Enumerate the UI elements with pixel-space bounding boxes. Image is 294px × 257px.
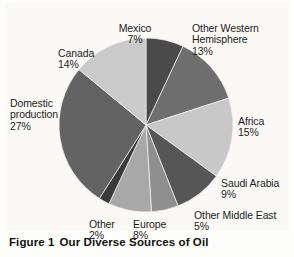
pie-label-other-western-hemisphere-pct: 13%: [192, 46, 288, 58]
pie-label-domestic-production: Domestic production 27%: [10, 86, 80, 144]
figure-container: Mexico 7% Other Western Hemisphere 13% C…: [0, 0, 294, 257]
figure-caption-number: Figure 1: [9, 236, 55, 248]
pie-label-canada-pct: 14%: [58, 59, 120, 71]
pie-label-other-western-hemisphere: Other Western Hemisphere 13%: [192, 11, 288, 69]
pie-label-africa-pct: 15%: [238, 127, 290, 139]
pie-label-canada: Canada 14%: [58, 36, 120, 82]
pie-label-other-name: Other: [89, 218, 115, 230]
pie-label-europe-name: Europe: [133, 218, 166, 230]
pie-label-domestic-production-pct: 27%: [10, 121, 80, 133]
figure-caption-title: Our Diverse Sources of Oil: [60, 236, 209, 248]
pie-label-mexico-name: Mexico: [119, 22, 152, 34]
pie-label-other-middle-east-name: Other Middle East: [194, 209, 276, 221]
figure-caption: Figure 1Our Diverse Sources of Oil: [9, 236, 289, 248]
pie-label-domestic-production-name: Domestic production: [10, 97, 58, 121]
pie-label-africa-name: Africa: [238, 115, 264, 127]
pie-label-other-middle-east-pct: 5%: [194, 221, 294, 233]
pie-label-saudi-arabia-name: Saudi Arabia: [221, 177, 279, 189]
pie-label-africa: Africa 15%: [238, 104, 290, 150]
pie-label-canada-name: Canada: [58, 47, 94, 59]
pie-label-other-western-hemisphere-name: Other Western Hemisphere: [192, 22, 259, 46]
